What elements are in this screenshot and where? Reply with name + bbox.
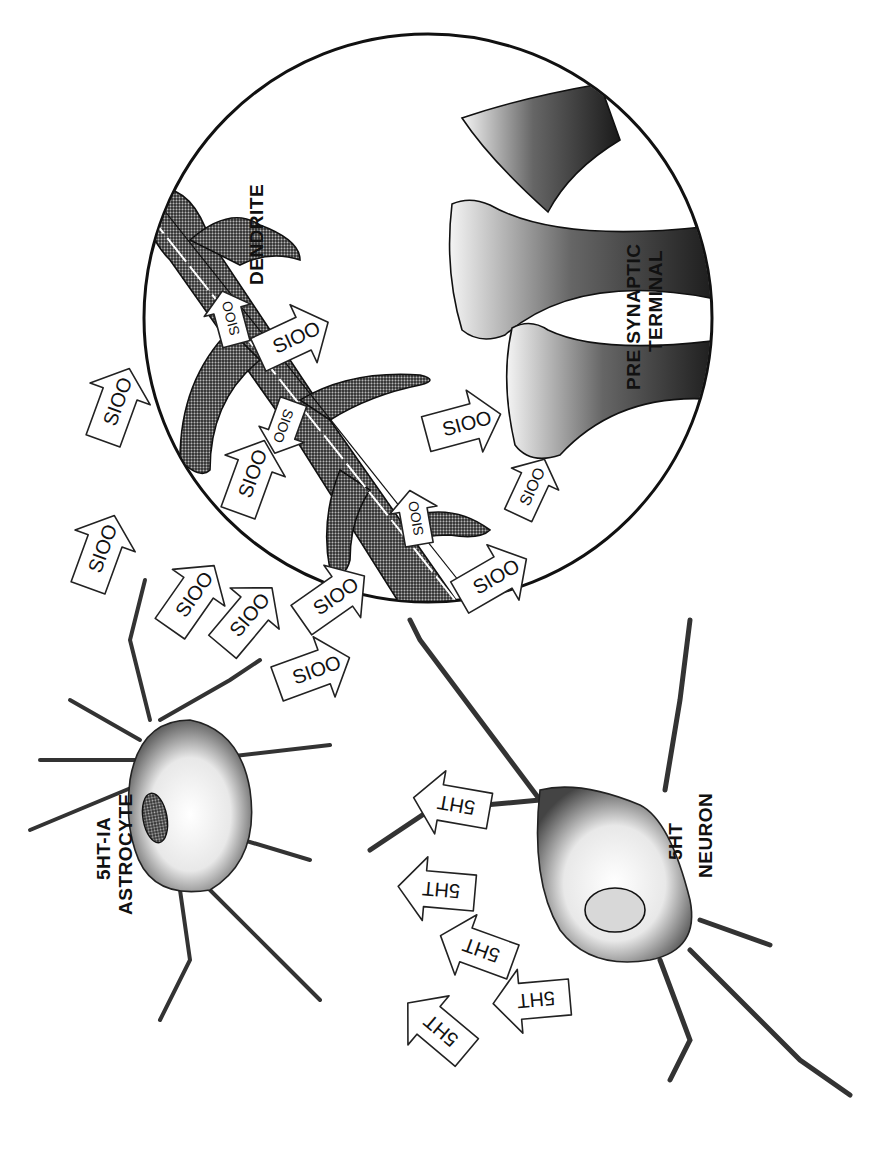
label-neuron-1: 5HT [665,823,686,860]
label-astrocyte-2: ASTROCYTE [115,793,136,915]
svg-text:5HT: 5HT [421,877,461,902]
label-presynaptic-2: TERMINAL [645,250,666,352]
astrocyte [30,580,330,1020]
label-neuron-2: NEURON [695,793,716,878]
label-presynaptic-1: PRE SYNAPTIC [623,244,644,390]
neuron-nucleus [585,888,645,932]
diagram-canvas: SIOO SIOO SIOO SIOO SIOO SIOO SIOO SIOO … [0,0,877,1173]
label-dendrite: DENDRITE [246,184,267,285]
svg-text:5HT: 5HT [516,987,556,1012]
label-astrocyte-1: 5HT-IA [93,817,114,880]
